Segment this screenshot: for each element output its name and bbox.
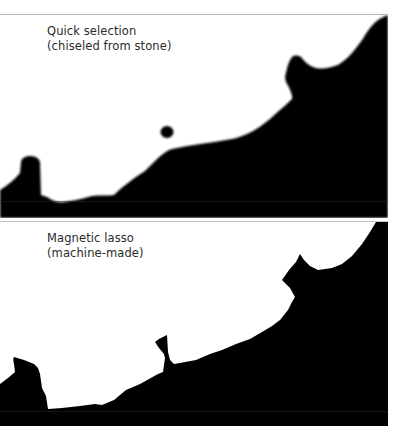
caption-title: Magnetic lasso xyxy=(47,231,144,246)
magnetic-lasso-panel: Magnetic lasso (machine-made) xyxy=(0,221,388,426)
quick-selection-caption: Quick selection (chiseled from stone) xyxy=(47,24,172,54)
magnetic-lasso-caption: Magnetic lasso (machine-made) xyxy=(47,231,144,261)
stray-selection-blob xyxy=(161,126,174,138)
caption-subtitle: (chiseled from stone) xyxy=(47,39,172,54)
quick-selection-panel: Quick selection (chiseled from stone) xyxy=(0,14,388,218)
caption-title: Quick selection xyxy=(47,24,172,39)
caption-subtitle: (machine-made) xyxy=(47,246,144,261)
